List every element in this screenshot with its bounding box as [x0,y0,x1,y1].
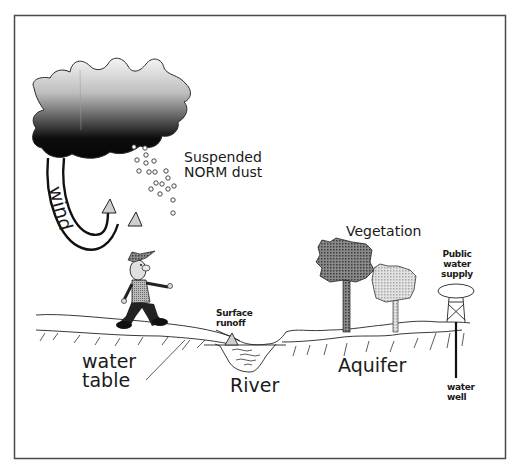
dust-label-line2: NORM dust [184,165,262,180]
aquifer-label: Aquifer [338,356,406,375]
river-label: River [230,376,279,395]
water-table-line2: table [82,371,136,390]
water-well-line1: water [447,382,475,392]
water-well-line2: well [447,392,475,402]
public-water-supply-label: Public water supply [436,249,478,279]
water-well-label: water well [447,382,475,402]
public-supply-line2: water [436,259,478,269]
dust-label-line1: Suspended [184,150,262,165]
public-supply-line1: Public [436,249,478,259]
dust-label: Suspended NORM dust [184,150,262,180]
surface-runoff-label: Surface runoff [216,308,253,328]
surface-runoff-line2: runoff [216,318,253,328]
surface-runoff-line1: Surface [216,308,253,318]
vegetation-label: Vegetation [346,224,422,239]
public-supply-line3: supply [436,269,478,279]
groundwater-norm-diagram [0,0,517,471]
water-table-label: water table [82,352,136,390]
